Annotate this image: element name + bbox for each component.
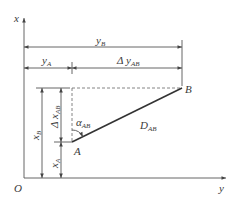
svg-text:xB: xB	[29, 130, 43, 141]
svg-text:Δ yAB: Δ yAB	[116, 54, 140, 68]
point-a-label: A	[73, 145, 81, 157]
dim-yB: yB	[24, 34, 182, 48]
dim-xA: xA	[48, 142, 62, 178]
svg-text:xA: xA	[48, 158, 62, 169]
horizontal-axis-label: y	[218, 182, 224, 194]
segment-ab	[72, 88, 182, 142]
angle-arc	[72, 130, 83, 137]
segment-label: DAB	[139, 119, 157, 133]
dim-dxAB: Δ xAB	[48, 88, 62, 142]
dim-dyAB: Δ yAB	[72, 54, 182, 68]
axes: x y O	[13, 12, 226, 194]
vertical-axis-label: x	[13, 12, 19, 24]
svg-text:yA: yA	[41, 54, 52, 68]
svg-text:yB: yB	[95, 34, 106, 48]
coordinate-azimuth-diagram: x y O yB yA Δ yAB xB Δ xAB xA A B DAB	[0, 0, 234, 204]
angle-label: αAB	[76, 116, 91, 130]
svg-text:Δ xAB: Δ xAB	[48, 105, 62, 129]
point-b-label: B	[185, 83, 192, 95]
dim-yA: yA	[24, 54, 72, 68]
origin-label: O	[14, 182, 22, 194]
dim-xB: xB	[29, 88, 43, 178]
